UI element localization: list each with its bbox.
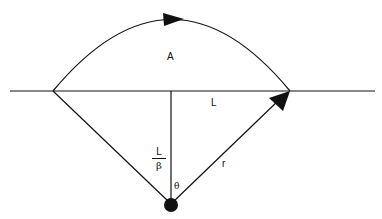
chord-label: L <box>211 98 217 108</box>
radius-arrow-line <box>173 99 280 202</box>
center-point <box>164 198 178 212</box>
diagram-canvas: A L L β r θ <box>0 0 382 219</box>
radius-arrowhead-icon <box>269 91 290 111</box>
height-numerator: L <box>152 146 166 159</box>
height-fraction-label: L β <box>152 146 166 171</box>
geometry-svg <box>0 0 382 219</box>
angle-label: θ <box>174 182 179 191</box>
radius-label: r <box>222 159 225 169</box>
height-denominator: β <box>152 159 166 171</box>
area-label: A <box>167 52 174 62</box>
arc-arrowhead-icon <box>163 13 184 26</box>
